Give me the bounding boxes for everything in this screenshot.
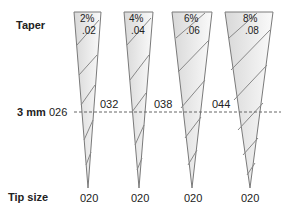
file-cone-4pct — [124, 12, 153, 188]
taper-pct-4: 8% — [243, 13, 257, 24]
taper-dec-4: .08 — [245, 25, 259, 36]
tip-size-3: 020 — [184, 192, 202, 204]
taper-dec-2: .04 — [131, 25, 145, 36]
taper-dec-1: .02 — [82, 25, 96, 36]
file-cone-6pct — [172, 12, 212, 188]
file-cone-2pct — [74, 12, 101, 188]
tip-size-1: 020 — [80, 192, 98, 204]
size-at-3mm-2: 032 — [100, 98, 118, 110]
size-at-3mm-4: 044 — [212, 98, 230, 110]
tip-size-label: Tip size — [8, 191, 48, 203]
file-cone-8pct — [225, 12, 273, 188]
taper-pct-2: 4% — [129, 13, 143, 24]
size-at-3mm-3: 038 — [154, 98, 172, 110]
taper-pct-1: 2% — [80, 13, 94, 24]
three-mm-label: 3 mm — [17, 106, 46, 118]
taper-dec-3: .06 — [186, 25, 200, 36]
taper-label: Taper — [16, 19, 45, 31]
tip-size-4: 020 — [241, 192, 259, 204]
taper-pct-3: 6% — [184, 13, 198, 24]
size-at-3mm-1: 026 — [49, 106, 67, 118]
tip-size-2: 020 — [131, 192, 149, 204]
